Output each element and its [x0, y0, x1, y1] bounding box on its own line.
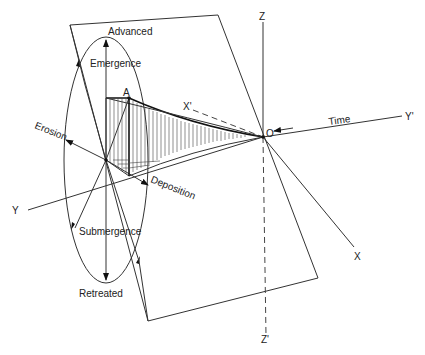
- label-time: Time: [328, 113, 352, 127]
- label-axis-x: X: [354, 251, 361, 262]
- shoreline-3d-diagram: Advanced Emergence Erosion Deposition Su…: [0, 0, 425, 355]
- label-erosion: Erosion: [33, 120, 69, 143]
- label-deposition: Deposition: [149, 174, 197, 202]
- label-axis-z-prime: Z': [261, 334, 269, 345]
- time-arrow: [274, 128, 293, 131]
- label-axis-y: Y: [12, 205, 19, 216]
- label-advanced: Advanced: [108, 26, 152, 37]
- label-origin: O: [266, 128, 274, 139]
- label-axis-z: Z: [259, 11, 265, 22]
- label-emergence: Emergence: [90, 58, 142, 69]
- label-axis-y-prime: Y': [405, 111, 414, 122]
- x-axis: [263, 137, 354, 247]
- label-retreated: Retreated: [79, 288, 123, 299]
- label-axis-x-prime: X': [183, 101, 192, 112]
- label-submergence: Submergence: [79, 226, 142, 237]
- z-prime-axis: [263, 137, 266, 336]
- label-point-a: A: [123, 87, 130, 98]
